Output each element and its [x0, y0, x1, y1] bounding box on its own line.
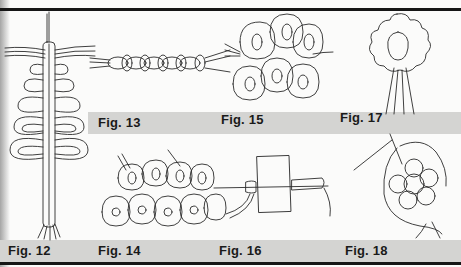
fig-14-illustration	[98, 146, 228, 236]
document-page: Fig. 12 Fig. 13 Fig. 15 Fig. 17 Fig. 14 …	[0, 0, 461, 267]
fig-16-illustration	[210, 150, 335, 235]
label-bar-top-row	[88, 112, 461, 134]
fig-17-illustration	[362, 10, 437, 115]
fig-18-illustration	[352, 134, 457, 240]
fig-12-illustration	[0, 10, 95, 240]
fig-12-label: Fig. 12	[8, 240, 51, 262]
fig-13-label: Fig. 13	[98, 112, 141, 134]
fig-15-label: Fig. 15	[221, 109, 264, 131]
fig-14-label: Fig. 14	[98, 240, 141, 262]
fig-13-illustration	[90, 40, 230, 85]
fig-16-label: Fig. 16	[219, 240, 262, 262]
fig-18-label: Fig. 18	[345, 240, 388, 262]
fig-15-illustration	[225, 14, 335, 109]
bottom-rule	[0, 262, 461, 265]
